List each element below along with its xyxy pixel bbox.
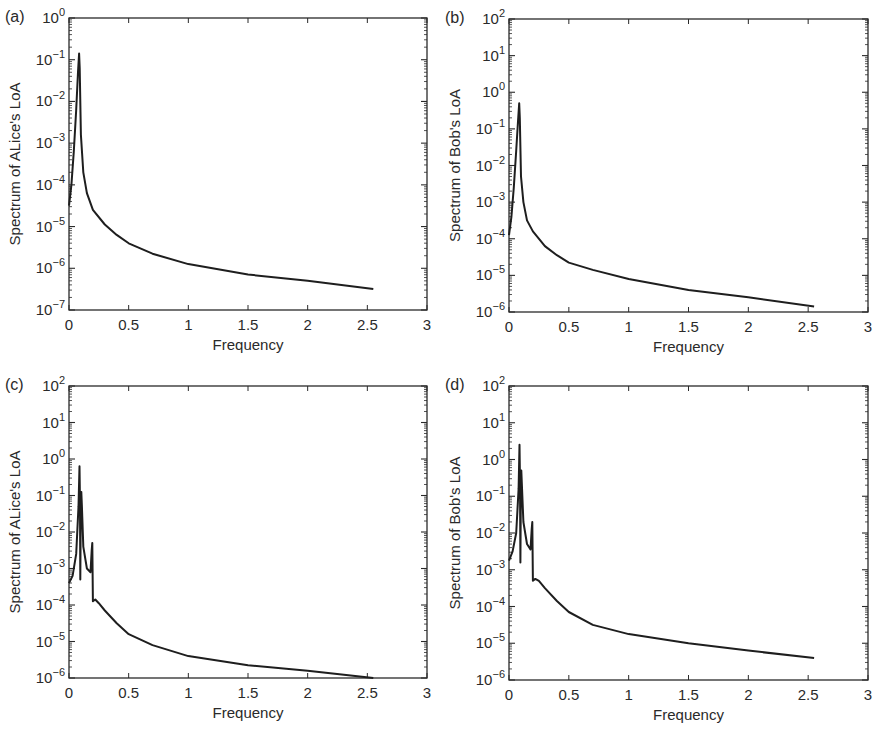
x-tick-label: 2.5: [798, 318, 819, 335]
x-tick-label: 1.5: [678, 318, 699, 335]
panel-label: (d): [445, 376, 465, 393]
x-tick-label: 2.5: [357, 684, 378, 701]
x-tick-label: 0.5: [558, 686, 579, 703]
y-tick-label: 10−5: [36, 215, 65, 235]
x-axis-label: Frequency: [213, 336, 284, 353]
y-tick-label: 100: [42, 447, 65, 467]
y-tick-label: 100: [482, 80, 505, 100]
panel-a: 00.511.522.5310−710−610−510−410−310−210−…: [0, 0, 440, 360]
x-tick-label: 0.5: [118, 316, 139, 333]
x-tick-label: 2: [744, 686, 752, 703]
x-tick-label: 1: [624, 686, 632, 703]
axes-frame: [509, 19, 868, 312]
panel-c: 00.511.522.5310−610−510−410−310−210−1100…: [0, 360, 440, 733]
x-tick-label: 3: [864, 318, 872, 335]
x-tick-label: 1: [184, 684, 192, 701]
spectrum-line: [509, 445, 814, 658]
y-tick-label: 10−3: [476, 558, 505, 578]
x-tick-label: 2.5: [357, 316, 378, 333]
y-tick-label: 10−6: [36, 256, 65, 276]
chart-d: 00.511.522.5310−610−510−410−310−210−1100…: [440, 360, 879, 733]
y-tick-label: 100: [482, 448, 505, 468]
x-tick-label: 1: [624, 318, 632, 335]
x-tick-label: 0: [65, 684, 73, 701]
y-tick-label: 10−4: [476, 595, 505, 615]
y-tick-label: 101: [482, 411, 505, 431]
chart-a: 00.511.522.5310−710−610−510−410−310−210−…: [0, 0, 440, 360]
y-tick-label: 10−1: [476, 484, 505, 504]
y-tick-label: 10−1: [36, 484, 65, 504]
y-axis-label: Spectrum of ALice's LoA: [6, 451, 23, 614]
y-axis-label: Spectrum of ALice's LoA: [6, 83, 23, 246]
axes-frame: [509, 386, 868, 680]
x-tick-label: 0.5: [118, 684, 139, 701]
spectrum-line: [509, 103, 814, 306]
y-axis-label: Spectrum of Bob's LoA: [446, 457, 463, 610]
y-tick-label: 10−2: [476, 154, 505, 174]
y-tick-label: 10−1: [476, 117, 505, 137]
panel-b: 00.511.522.5310−610−510−410−310−210−1100…: [440, 0, 879, 360]
chart-c: 00.511.522.5310−610−510−410−310−210−1100…: [0, 360, 440, 733]
x-tick-label: 1.5: [238, 684, 259, 701]
y-tick-label: 10−4: [36, 173, 65, 193]
y-axis-label: Spectrum of Bob's LoA: [446, 89, 463, 242]
panel-label: (c): [5, 376, 24, 393]
panel-label: (a): [5, 8, 25, 25]
x-axis-label: Frequency: [653, 706, 724, 723]
y-tick-label: 10−1: [36, 48, 65, 68]
x-tick-label: 1: [184, 316, 192, 333]
y-tick-label: 10−4: [36, 593, 65, 613]
x-tick-label: 3: [864, 686, 872, 703]
spectrum-line: [69, 54, 373, 290]
y-tick-label: 10−7: [36, 298, 65, 318]
axes-frame: [69, 18, 427, 310]
x-tick-label: 0: [65, 316, 73, 333]
y-tick-label: 10−3: [476, 190, 505, 210]
y-tick-label: 10−4: [476, 227, 505, 247]
x-tick-label: 3: [423, 316, 431, 333]
axes-frame: [69, 386, 427, 678]
y-tick-label: 102: [482, 374, 505, 394]
panel-label: (b): [445, 9, 465, 26]
x-tick-label: 0: [505, 686, 513, 703]
panel-d: 00.511.522.5310−610−510−410−310−210−1100…: [440, 360, 879, 733]
y-tick-label: 10−5: [36, 630, 65, 650]
y-tick-label: 10−6: [476, 668, 505, 688]
x-tick-label: 1.5: [678, 686, 699, 703]
chart-b: 00.511.522.5310−610−510−410−310−210−1100…: [440, 0, 879, 360]
y-tick-label: 10−3: [36, 557, 65, 577]
y-tick-label: 100: [42, 6, 65, 26]
x-tick-label: 2: [744, 318, 752, 335]
y-tick-label: 10−6: [36, 666, 65, 686]
y-tick-label: 10−5: [476, 631, 505, 651]
y-tick-label: 101: [482, 44, 505, 64]
x-tick-label: 1.5: [238, 316, 259, 333]
y-tick-label: 10−3: [36, 131, 65, 151]
y-tick-label: 10−2: [476, 521, 505, 541]
x-tick-label: 3: [423, 684, 431, 701]
y-tick-label: 10−2: [36, 89, 65, 109]
x-tick-label: 0: [505, 318, 513, 335]
y-tick-label: 102: [482, 7, 505, 27]
x-tick-label: 2: [303, 316, 311, 333]
x-axis-label: Frequency: [653, 338, 724, 355]
x-tick-label: 2: [303, 684, 311, 701]
y-tick-label: 10−5: [476, 263, 505, 283]
y-tick-label: 10−6: [476, 300, 505, 320]
y-tick-label: 102: [42, 374, 65, 394]
spectrum-line: [69, 466, 373, 678]
y-tick-label: 101: [42, 411, 65, 431]
y-tick-label: 10−2: [36, 520, 65, 540]
x-tick-label: 0.5: [558, 318, 579, 335]
x-axis-label: Frequency: [213, 704, 284, 721]
x-tick-label: 2.5: [798, 686, 819, 703]
